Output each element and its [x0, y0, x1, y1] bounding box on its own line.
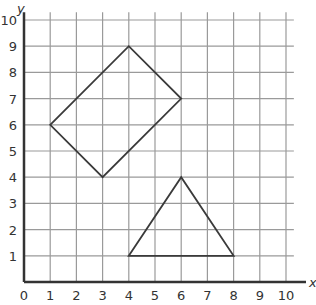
- x-axis-label: x: [308, 275, 316, 290]
- y-tick-label: 5: [9, 144, 17, 159]
- x-tick-label: 3: [98, 288, 106, 303]
- y-tick-label: 10: [0, 13, 17, 28]
- y-tick-label: 9: [9, 39, 17, 54]
- x-tick-label: 1: [46, 288, 54, 303]
- x-tick-label: 8: [229, 288, 237, 303]
- x-tick-label: 5: [151, 288, 159, 303]
- y-axis-label: y: [16, 1, 25, 16]
- grid-lines: [24, 12, 294, 282]
- y-tick-label: 1: [9, 249, 17, 264]
- x-tick-label: 9: [256, 288, 264, 303]
- quadrilateral-shape: [50, 46, 181, 177]
- tick-labels: 01234567891012345678910: [0, 13, 294, 303]
- y-tick-label: 6: [9, 118, 17, 133]
- y-tick-label: 8: [9, 65, 17, 80]
- x-tick-label: 4: [125, 288, 133, 303]
- x-tick-label: 0: [20, 288, 28, 303]
- axes: [24, 12, 306, 282]
- x-tick-label: 7: [203, 288, 211, 303]
- x-tick-label: 6: [177, 288, 185, 303]
- y-tick-label: 7: [9, 92, 17, 107]
- y-tick-label: 3: [9, 196, 17, 211]
- coordinate-grid: 01234567891012345678910 x y: [0, 0, 316, 305]
- x-tick-label: 10: [278, 288, 295, 303]
- y-tick-label: 4: [9, 170, 17, 185]
- y-tick-label: 2: [9, 223, 17, 238]
- x-tick-label: 2: [72, 288, 80, 303]
